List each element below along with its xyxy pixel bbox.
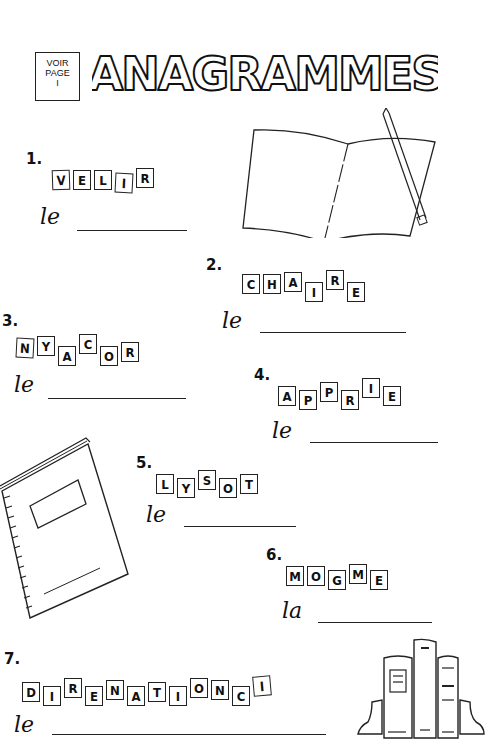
see-page-box: VOIR PAGE I <box>35 52 80 101</box>
letter-tile: D <box>22 682 40 702</box>
open-book-pencil-icon <box>240 108 440 238</box>
bubble-title-graphic: ANAGRAMMES <box>92 44 438 104</box>
exercise-1-answer-line[interactable] <box>77 230 187 231</box>
exercise-6-letters: M O G M E <box>286 566 391 590</box>
letter-tile: M <box>349 564 367 584</box>
letter-tile: C <box>232 686 250 706</box>
letter-tile: H <box>263 274 281 294</box>
letter-tile: G <box>328 570 346 590</box>
letter-tile: N <box>211 680 229 700</box>
letter-tile: I <box>362 378 380 398</box>
letter-tile: P <box>299 390 317 410</box>
exercise-7-answer-line[interactable] <box>52 734 326 735</box>
letter-tile: V <box>52 170 71 191</box>
exercise-5-answer-line[interactable] <box>184 526 296 527</box>
letter-tile: R <box>121 342 139 362</box>
letter-tile: E <box>73 170 91 190</box>
exercise-5-letters: L Y S O T <box>156 470 261 498</box>
letter-tile: I <box>252 675 272 696</box>
exercise-5-article: le <box>146 502 166 527</box>
letter-tile: A <box>127 686 145 706</box>
letter-tile: T <box>148 682 166 702</box>
exercise-2-letters: C H A I R E <box>242 274 368 302</box>
letter-tile: N <box>15 338 34 359</box>
letter-tile: E <box>347 282 365 302</box>
letter-tile: E <box>85 686 103 706</box>
letter-tile: N <box>106 680 124 700</box>
exercise-7-article: le <box>14 712 34 737</box>
letter-tile: L <box>156 474 174 494</box>
see-page-line-3: I <box>36 78 79 88</box>
letter-tile: M <box>286 566 304 586</box>
exercise-6-number: 6. <box>266 546 282 564</box>
exercise-4-article: le <box>272 418 292 443</box>
letter-tile: O <box>190 678 208 698</box>
exercise-3-number: 3. <box>2 312 18 330</box>
letter-tile: R <box>136 168 154 188</box>
letter-tile: C <box>79 334 97 354</box>
exercise-6-answer-line[interactable] <box>318 622 432 623</box>
exercise-3-letters: N Y A C O R <box>16 338 142 366</box>
letter-tile: A <box>284 272 302 292</box>
exercise-1-article: le <box>40 204 60 229</box>
letter-tile: O <box>219 478 237 498</box>
letter-tile: I <box>169 686 187 706</box>
see-page-line-2: PAGE <box>36 68 79 78</box>
books-bookends-icon <box>350 634 492 742</box>
exercise-4-answer-line[interactable] <box>310 442 438 443</box>
letter-tile: I <box>114 173 133 194</box>
exercise-4-number: 4. <box>254 366 270 384</box>
letter-tile: I <box>43 686 61 706</box>
letter-tile: Y <box>37 336 55 356</box>
exercise-2-article: le <box>222 308 242 333</box>
letter-tile: A <box>278 386 296 406</box>
letter-tile: L <box>94 170 112 190</box>
exercise-2-number: 2. <box>206 256 222 274</box>
letter-tile: O <box>307 566 325 586</box>
svg-text:ANAGRAMMES: ANAGRAMMES <box>92 47 438 101</box>
exercise-2-answer-line[interactable] <box>260 332 406 333</box>
page-title: ANAGRAMMES <box>92 44 438 104</box>
see-page-line-1: VOIR <box>36 58 79 68</box>
letter-tile: Y <box>177 478 195 498</box>
letter-tile: R <box>341 390 359 410</box>
letter-tile: S <box>198 470 216 490</box>
exercise-6-article: la <box>282 598 302 623</box>
exercise-3-article: le <box>14 372 34 397</box>
spiral-notebook-icon <box>0 436 135 622</box>
letter-tile: R <box>326 270 344 290</box>
letter-tile: P <box>320 382 338 402</box>
exercise-3-answer-line[interactable] <box>48 398 186 399</box>
letter-tile: T <box>240 474 258 494</box>
letter-tile: E <box>383 386 401 406</box>
letter-tile: C <box>242 274 260 294</box>
letter-tile: O <box>100 346 118 366</box>
letter-tile: E <box>370 570 388 590</box>
exercise-1-number: 1. <box>26 150 42 168</box>
letter-tile: I <box>305 282 323 302</box>
exercise-5-number: 5. <box>136 454 152 472</box>
exercise-7-letters: D I R E N A T I O N C I <box>22 676 274 706</box>
exercise-7-number: 7. <box>4 650 20 668</box>
exercise-1-letters: V E L I R <box>52 170 157 193</box>
exercise-4-letters: A P P R I E <box>278 382 404 410</box>
letter-tile: A <box>58 346 76 366</box>
letter-tile: R <box>64 678 82 698</box>
